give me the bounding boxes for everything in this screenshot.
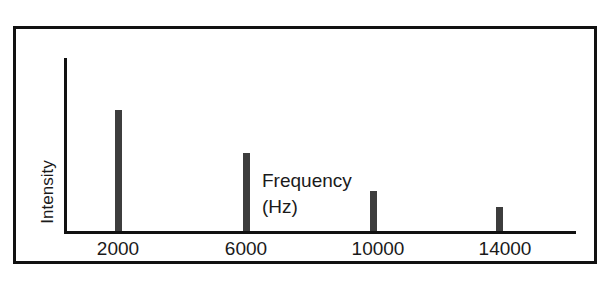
x-axis-title-line1: Frequency [262,168,352,194]
x-axis-title: Frequency (Hz) [262,168,352,220]
y-axis-line [64,58,67,234]
x-tick-label-2000: 2000 [97,238,139,260]
x-axis-title-line2: (Hz) [262,194,352,220]
bar-2000 [115,110,122,231]
bar-6000 [243,153,250,231]
x-tick-label-14000: 14000 [479,238,532,260]
x-tick-label-10000: 10000 [352,238,405,260]
bar-10000 [370,191,377,231]
y-axis-title: Intensity [39,160,57,223]
bar-14000 [496,207,503,231]
x-tick-label-6000: 6000 [225,238,267,260]
x-axis-line [64,231,576,234]
chart-plot-area: 2000 6000 10000 14000 Intensity Frequenc… [0,0,610,284]
